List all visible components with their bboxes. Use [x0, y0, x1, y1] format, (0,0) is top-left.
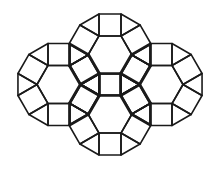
square	[48, 43, 70, 65]
triangle	[132, 44, 151, 66]
triangle	[183, 74, 202, 96]
triangle	[132, 103, 151, 125]
triangle	[18, 74, 37, 96]
square	[150, 43, 172, 65]
square	[48, 104, 70, 126]
square	[121, 114, 151, 144]
hexagon	[88, 95, 132, 133]
square	[172, 54, 202, 84]
triangle	[121, 133, 140, 155]
triangle	[172, 104, 191, 126]
triangle	[81, 74, 100, 96]
triangle	[29, 43, 48, 65]
triangle	[80, 14, 99, 36]
tiling-diagram	[0, 0, 212, 173]
triangle	[69, 103, 88, 125]
square	[18, 54, 48, 84]
square	[69, 25, 99, 55]
square	[69, 114, 99, 144]
triangle	[80, 133, 99, 155]
triangle	[121, 14, 140, 36]
square	[150, 104, 172, 126]
rosette-bottom	[69, 73, 151, 155]
triangle	[172, 43, 191, 65]
square	[99, 14, 121, 36]
square	[172, 85, 202, 115]
hexagon	[37, 65, 81, 103]
triangle	[120, 74, 139, 96]
triangle	[29, 104, 48, 126]
triangle	[69, 44, 88, 66]
square	[121, 25, 151, 55]
square	[18, 85, 48, 115]
square	[99, 74, 121, 96]
hexagon	[88, 36, 132, 74]
square	[99, 73, 121, 95]
hexagon	[139, 65, 183, 103]
square	[99, 133, 121, 155]
